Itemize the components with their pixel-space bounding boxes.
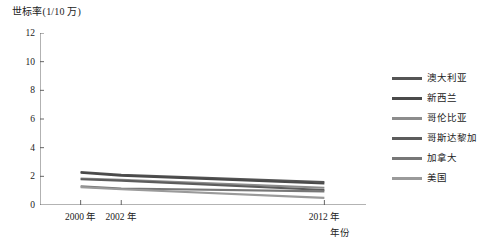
legend-item-label: 新西兰 <box>427 93 457 104</box>
y-tick-label: 0 <box>11 200 35 210</box>
legend-color-swatch <box>392 117 422 120</box>
x-tick-label: 2012 年 <box>309 212 340 223</box>
legend-item[interactable]: 哥斯达黎加 <box>392 128 498 148</box>
legend-item-label: 哥伦比亚 <box>427 113 467 124</box>
legend-color-swatch <box>392 157 422 160</box>
legend-item[interactable]: 美国 <box>392 168 498 188</box>
y-tick-label: 2 <box>11 171 35 181</box>
y-axis-title: 世标率(1/10 万) <box>12 6 81 18</box>
chart-legend: 澳大利亚新西兰哥伦比亚哥斯达黎加加拿大美国 <box>392 68 498 188</box>
legend-color-swatch <box>392 97 422 100</box>
legend-item-label: 哥斯达黎加 <box>427 133 477 144</box>
y-tick-label: 10 <box>11 57 35 67</box>
y-tick-label: 8 <box>11 85 35 95</box>
legend-item-label: 美国 <box>427 173 447 184</box>
legend-color-swatch <box>392 77 422 80</box>
chart-figure: 世标率(1/10 万) 024681012 2000 年2002 年2012 年… <box>0 0 500 250</box>
legend-item[interactable]: 澳大利亚 <box>392 68 498 88</box>
x-axis-title: 年份 <box>330 228 350 239</box>
x-tick-label: 2000 年 <box>65 212 96 223</box>
legend-item[interactable]: 加拿大 <box>392 148 498 168</box>
legend-item[interactable]: 哥伦比亚 <box>392 108 498 128</box>
legend-color-swatch <box>392 137 422 140</box>
y-tick-label: 12 <box>11 28 35 38</box>
series-line <box>81 173 325 184</box>
legend-color-swatch <box>392 177 422 180</box>
x-tick-label: 2002 年 <box>106 212 137 223</box>
series-lines <box>81 172 325 198</box>
legend-item[interactable]: 新西兰 <box>392 88 498 108</box>
y-tick-label: 6 <box>11 114 35 124</box>
legend-item-label: 加拿大 <box>427 153 457 164</box>
y-tick-label: 4 <box>11 143 35 153</box>
plot-area <box>40 33 366 205</box>
legend-item-label: 澳大利亚 <box>427 73 467 84</box>
